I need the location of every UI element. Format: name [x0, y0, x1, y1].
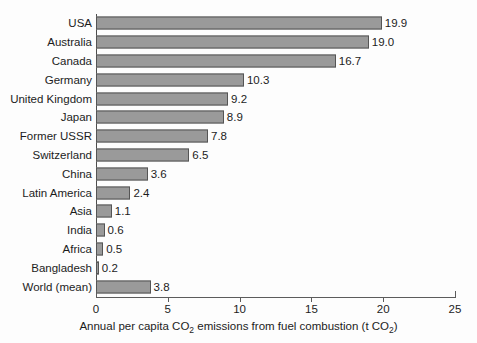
category-label: Former USSR [20, 130, 92, 142]
bar-row: United Kingdom9.2 [96, 89, 455, 108]
x-tick-label: 25 [449, 303, 462, 316]
category-label: Japan [61, 111, 92, 123]
bar [96, 186, 130, 199]
bar-value-label: 9.2 [231, 93, 247, 105]
bar [96, 36, 369, 49]
bar-row: China3.6 [96, 164, 455, 183]
bar-value-label: 0.2 [102, 262, 118, 274]
bar-value-label: 3.8 [154, 281, 170, 293]
category-label: USA [68, 17, 92, 29]
bar-value-label: 16.7 [339, 55, 361, 67]
x-axis-title-sub2: 2 [389, 325, 394, 335]
x-tick-label: 10 [233, 303, 246, 316]
x-axis-title-part1: Annual per capita CO [79, 320, 189, 332]
bar [96, 242, 103, 255]
x-axis-title: Annual per capita CO2 emissions from fue… [0, 319, 477, 334]
category-label: Canada [52, 55, 92, 67]
category-label: Bangladesh [31, 262, 92, 274]
category-label: United Kingdom [10, 93, 92, 105]
category-label: Asia [70, 205, 92, 217]
x-axis-line [96, 297, 455, 298]
x-axis-title-part2: emissions from fuel combustion (t CO [194, 320, 389, 332]
bar-value-label: 10.3 [247, 74, 269, 86]
bar-row: Former USSR7.8 [96, 127, 455, 146]
x-tick-mark [455, 291, 456, 298]
x-tick-mark [96, 291, 97, 298]
x-tick-label: 5 [165, 303, 171, 316]
bar-row: Africa0.5 [96, 240, 455, 259]
x-tick-mark [383, 297, 384, 302]
bar [96, 224, 105, 237]
bar-value-label: 6.5 [192, 149, 208, 161]
bar-value-label: 0.6 [108, 224, 124, 236]
bar [96, 111, 224, 124]
bar-row: Japan8.9 [96, 108, 455, 127]
bar [96, 54, 336, 67]
x-tick-mark [168, 297, 169, 302]
bar [96, 130, 208, 143]
bar [96, 73, 244, 86]
bar-row: World (mean)3.8 [96, 277, 455, 296]
category-label: Africa [63, 243, 92, 255]
x-tick-mark [240, 297, 241, 302]
bar-row: Australia19.0 [96, 33, 455, 52]
bar-value-label: 2.4 [133, 187, 149, 199]
category-label: Germany [45, 74, 92, 86]
bar-value-label: 0.5 [106, 243, 122, 255]
bar [96, 148, 189, 161]
category-label: Australia [47, 36, 92, 48]
bar-row: Bangladesh0.2 [96, 258, 455, 277]
bar-chart: USA19.9Australia19.0Canada16.7Germany10.… [0, 0, 477, 343]
bar [96, 17, 382, 30]
x-tick-label: 20 [377, 303, 390, 316]
category-label: China [62, 168, 92, 180]
x-tick-mark [311, 297, 312, 302]
bar-value-label: 1.1 [115, 205, 131, 217]
bar-row: Switzerland6.5 [96, 146, 455, 165]
bar-row: Latin America2.4 [96, 183, 455, 202]
bar-row: Asia1.1 [96, 202, 455, 221]
category-label: World (mean) [23, 281, 92, 293]
bar-value-label: 3.6 [151, 168, 167, 180]
plot-area: USA19.9Australia19.0Canada16.7Germany10.… [96, 14, 455, 296]
category-label: India [67, 224, 92, 236]
bar [96, 280, 151, 293]
x-tick-label: 0 [93, 303, 99, 316]
bar-row: Germany10.3 [96, 70, 455, 89]
bar-value-label: 7.8 [211, 130, 227, 142]
x-axis-title-sub1: 2 [189, 325, 194, 335]
x-tick-label: 15 [305, 303, 318, 316]
bar [96, 167, 148, 180]
bar [96, 92, 228, 105]
bar [96, 205, 112, 218]
bar-value-label: 19.0 [372, 36, 394, 48]
bar [96, 261, 99, 274]
category-label: Switzerland [33, 149, 92, 161]
bar-value-label: 19.9 [385, 17, 407, 29]
bar-value-label: 8.9 [227, 111, 243, 123]
bar-row: India0.6 [96, 221, 455, 240]
x-axis-title-part3: ) [394, 320, 398, 332]
bar-row: Canada16.7 [96, 52, 455, 71]
category-label: Latin America [22, 187, 92, 199]
bar-row: USA19.9 [96, 14, 455, 33]
